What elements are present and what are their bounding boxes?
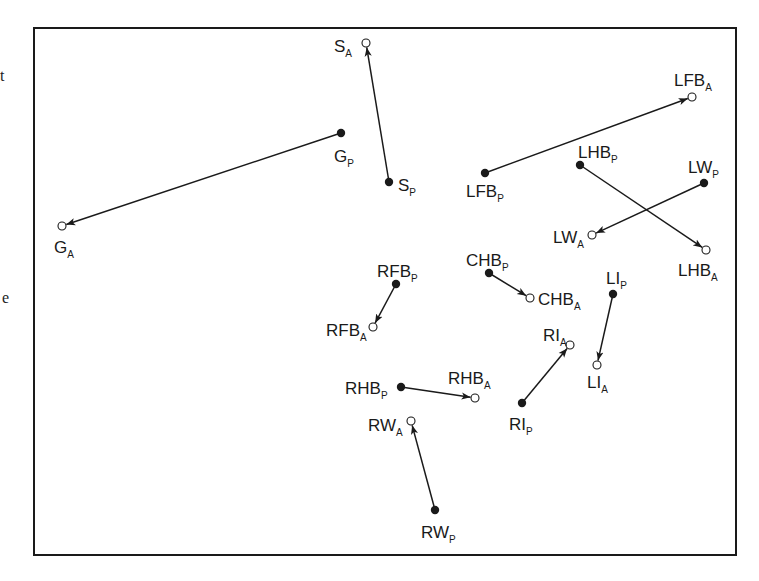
vectors-layer: SPSAGPGALFBPLFBALHBPLHBALWPLWARFBPRFBACH… <box>54 37 719 545</box>
arrow-line <box>375 284 396 323</box>
filled-dot-icon <box>481 169 489 177</box>
arrow-line <box>596 183 704 233</box>
open-dot-icon <box>588 231 596 239</box>
filled-dot-icon <box>518 399 526 407</box>
label-lw-p: LWP <box>688 158 719 180</box>
label-lfb-a: LFBA <box>674 71 712 93</box>
vector-lw: LWPLWA <box>553 158 719 250</box>
open-dot-icon <box>58 222 66 230</box>
label-lfb-p: LFBP <box>466 182 504 204</box>
arrow-line <box>489 273 526 296</box>
arrow-line <box>580 165 702 247</box>
label-lw-a: LWA <box>553 228 584 250</box>
label-rhb-a: RHBA <box>448 369 491 391</box>
open-dot-icon <box>688 93 696 101</box>
vector-s: SPSA <box>334 37 416 198</box>
label-rw-a: RWA <box>368 416 403 438</box>
label-lhb-a: LHBA <box>678 261 718 283</box>
label-g-a: GA <box>54 238 74 260</box>
label-rfb-a: RFBA <box>326 321 367 343</box>
vector-ri: RIPRIA <box>509 326 574 437</box>
filled-dot-icon <box>397 383 405 391</box>
arrow-line <box>401 387 471 397</box>
label-lhb-p: LHBP <box>578 143 618 165</box>
open-dot-icon <box>471 394 479 402</box>
filled-dot-icon <box>385 178 393 186</box>
filled-dot-icon <box>609 290 617 298</box>
vector-rfb: RFBPRFBA <box>326 262 418 343</box>
label-g-p: GP <box>334 147 354 169</box>
open-dot-icon <box>369 323 377 331</box>
label-chb-a: CHBA <box>538 290 581 312</box>
label-ri-a: RIA <box>543 326 567 348</box>
open-dot-icon <box>362 39 370 47</box>
vector-li: LIPLIA <box>587 269 627 395</box>
vector-g: GPGA <box>54 129 354 260</box>
vector-lfb: LFBPLFBA <box>466 71 712 204</box>
filled-dot-icon <box>700 179 708 187</box>
open-dot-icon <box>702 246 710 254</box>
label-rw-p: RWP <box>421 523 456 545</box>
label-s-a: SA <box>334 37 352 59</box>
vector-rhb: RHBPRHBA <box>345 369 491 402</box>
arrow-line <box>367 47 389 182</box>
arrow-line <box>66 133 341 225</box>
position-vector-diagram: SPSAGPGALFBPLFBALHBPLHBALWPLWARFBPRFBACH… <box>0 0 759 581</box>
label-li-a: LIA <box>587 373 608 395</box>
label-rfb-p: RFBP <box>377 262 418 284</box>
arrow-line <box>412 425 435 510</box>
filled-dot-icon <box>576 161 584 169</box>
label-ri-p: RIP <box>509 415 533 437</box>
vector-rw: RWPRWA <box>368 416 456 545</box>
filled-dot-icon <box>337 129 345 137</box>
filled-dot-icon <box>392 280 400 288</box>
vector-chb: CHBPCHBA <box>466 251 581 312</box>
label-s-p: SP <box>398 176 416 198</box>
open-dot-icon <box>526 294 534 302</box>
open-dot-icon <box>593 361 601 369</box>
arrow-line <box>522 348 567 403</box>
filled-dot-icon <box>485 269 493 277</box>
label-chb-p: CHBP <box>466 251 509 273</box>
plot-frame <box>34 28 736 555</box>
arrow-line <box>598 294 613 361</box>
label-li-p: LIP <box>606 269 627 291</box>
open-dot-icon <box>566 341 574 349</box>
filled-dot-icon <box>431 506 439 514</box>
open-dot-icon <box>407 417 415 425</box>
label-rhb-p: RHBP <box>345 379 388 401</box>
